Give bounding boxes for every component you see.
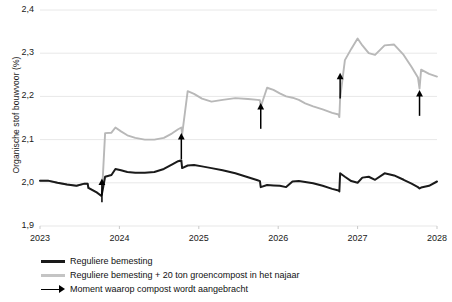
legend-label-compost: Reguliere bemesting + 20 ton groencompos… [70, 270, 299, 280]
compost-application-arrow-icon [178, 133, 185, 159]
legend-swatch-arrow-icon [40, 284, 66, 294]
chart-legend: Reguliere bemesting Reguliere bemesting … [40, 254, 440, 296]
series-line-regular [40, 160, 437, 195]
legend-label-regular: Reguliere bemesting [70, 256, 153, 266]
legend-label-arrow: Moment waarop compost wordt aangebracht [70, 284, 248, 294]
legend-item-regular: Reguliere bemesting [40, 254, 440, 268]
legend-swatch-line-gray [40, 270, 66, 280]
legend-swatch-line-dark [40, 256, 66, 266]
series-line-compost [40, 39, 437, 196]
compost-application-arrow-icon [257, 103, 264, 129]
compost-application-arrow-icon [416, 90, 423, 116]
legend-item-arrow: Moment waarop compost wordt aangebracht [40, 282, 440, 296]
legend-item-compost: Reguliere bemesting + 20 ton groencompos… [40, 268, 440, 282]
